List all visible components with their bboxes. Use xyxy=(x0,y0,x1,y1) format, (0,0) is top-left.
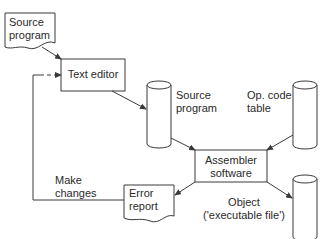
opcode-line-1: Op. code xyxy=(247,89,292,102)
assembler-line-2: software xyxy=(195,167,267,180)
opcode-line-2: table xyxy=(247,102,292,115)
source-program-file-label: Source program xyxy=(176,89,217,115)
arrow-source-doc-to-editor xyxy=(42,47,61,59)
source-doc-line-2: program xyxy=(9,29,50,42)
assembler-line-1: Assembler xyxy=(195,154,267,167)
arrow-source-file-to-assembler xyxy=(171,138,195,150)
text-editor-label: Text editor xyxy=(61,68,125,81)
error-report-line-2: report xyxy=(129,200,158,213)
object-file-cylinder-shape xyxy=(293,175,317,239)
source-doc-line-1: Source xyxy=(9,16,50,29)
object-file-label: Object ('executable file') xyxy=(196,196,292,222)
opcode-table-cylinder-shape xyxy=(293,81,317,149)
object-line-1: Object xyxy=(196,196,292,209)
arrow-editor-to-source-file xyxy=(112,91,146,109)
source-file-line-2: program xyxy=(176,102,217,115)
assembler-label: Assembler software xyxy=(195,154,267,180)
arrow-opcode-to-assembler xyxy=(267,135,293,150)
source-file-line-1: Source xyxy=(176,89,217,102)
error-report-label: Error report xyxy=(129,187,158,213)
make-changes-line-1: Make xyxy=(55,174,97,187)
object-line-2: ('executable file') xyxy=(196,209,292,222)
source-program-cylinder-shape xyxy=(147,81,171,148)
source-program-document-label: Source program xyxy=(9,16,50,42)
make-changes-line-2: changes xyxy=(55,187,97,200)
make-changes-label: Make changes xyxy=(55,174,97,200)
error-report-line-1: Error xyxy=(129,187,158,200)
opcode-table-label: Op. code table xyxy=(247,89,292,115)
arrow-assembler-to-error-report xyxy=(175,182,195,195)
